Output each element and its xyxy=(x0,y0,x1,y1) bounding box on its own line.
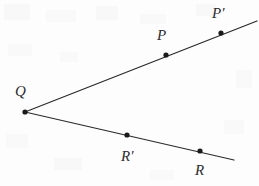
point-label-r-prime: R′ xyxy=(121,149,133,164)
point-marker-r xyxy=(197,148,202,153)
rays-group xyxy=(25,21,257,160)
point-marker-p xyxy=(163,52,168,57)
point-label-r: R xyxy=(195,163,204,178)
point-label-p: P xyxy=(157,28,166,43)
point-marker-rprime xyxy=(124,132,129,137)
point-label-q: Q xyxy=(15,84,26,99)
point-marker-q xyxy=(22,109,27,114)
point-marker-pprime xyxy=(218,30,223,35)
geometry-figure: Q P P′ R′ R xyxy=(0,0,259,186)
point-label-p-prime: P′ xyxy=(212,6,224,21)
